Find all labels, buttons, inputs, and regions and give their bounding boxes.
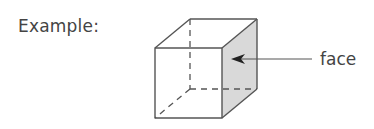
face-label: face bbox=[320, 49, 356, 69]
cube-diagram: face bbox=[0, 0, 374, 129]
arrow-icon bbox=[231, 54, 312, 64]
